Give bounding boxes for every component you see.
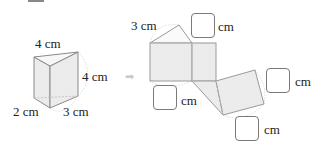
unit-label-bottom: cm: [264, 123, 280, 136]
answer-box-bottom[interactable]: [235, 116, 259, 141]
unit-label-top: cm: [218, 20, 234, 33]
unit-label-left-bottom: cm: [181, 94, 197, 107]
prism-bottom-left-label: 2 cm: [13, 105, 39, 118]
prism-bottom-right-label: 3 cm: [63, 105, 89, 118]
triangular-prism: [34, 52, 88, 111]
prism-height-label: 4 cm: [82, 70, 108, 83]
prism-top-edge-label: 4 cm: [35, 37, 61, 50]
answer-box-left-bottom[interactable]: [153, 85, 177, 110]
answer-box-top[interactable]: [191, 13, 215, 38]
answer-box-right[interactable]: [266, 68, 290, 93]
net-triangle-side-label: 3 cm: [131, 19, 157, 32]
arrow-right-icon: ➡: [125, 71, 134, 82]
unit-label-right: cm: [295, 75, 311, 88]
